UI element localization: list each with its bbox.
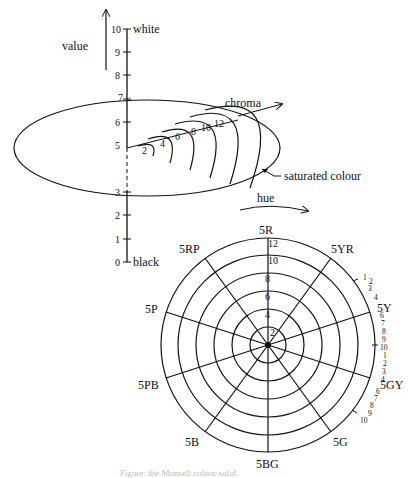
black-label: black [133, 255, 159, 269]
radial-tick-2: 2 [270, 327, 275, 338]
chroma-tick-10: 10 [201, 122, 211, 133]
hue-steps: 1 2 3 4 6 7 8 9 10 1 2 3 4 6 7 8 9 10 [360, 273, 388, 425]
hue-5P: 5P [145, 302, 158, 316]
svg-text:3: 3 [368, 284, 372, 293]
svg-text:7: 7 [374, 394, 378, 403]
radial-tick-4: 4 [265, 309, 270, 320]
value-tick-10: 10 [111, 24, 121, 35]
munsell-diagram: value 10 9 8 7 6 5 3 2 1 0 white black [0, 0, 415, 478]
value-axis-title: value [62, 39, 88, 53]
hue-label: hue [257, 191, 274, 205]
chroma-section: 2 4 6 8 10 12 chroma saturated colour [14, 96, 361, 196]
svg-text:9: 9 [368, 409, 372, 418]
value-tick-0: 0 [115, 257, 120, 268]
chroma-tick-4: 4 [160, 138, 165, 149]
hue-5R: 5R [259, 223, 273, 237]
value-tick-2: 2 [115, 210, 120, 221]
hue-5B: 5B [185, 435, 199, 449]
value-tick-1: 1 [115, 234, 120, 245]
radial-tick-8: 8 [265, 273, 270, 284]
value-tick-6: 6 [115, 117, 120, 128]
value-tick-8: 8 [115, 70, 120, 81]
chroma-tick-6: 6 [175, 131, 180, 142]
radial-tick-12: 12 [268, 238, 278, 249]
chroma-tick-8: 8 [191, 126, 196, 137]
chroma-tick-12: 12 [214, 118, 224, 129]
chroma-label: chroma [225, 96, 262, 110]
svg-text:10: 10 [360, 416, 368, 425]
hue-5G: 5G [333, 435, 348, 449]
svg-text:4: 4 [374, 293, 378, 302]
svg-text:1: 1 [363, 273, 367, 282]
figure-caption: Figure: the Munsell colour solid [120, 468, 236, 478]
saturated-colour-label: saturated colour [284, 169, 361, 183]
hue-circle: hue 2 4 6 8 10 12 [138, 191, 404, 471]
hue-5BG: 5BG [256, 457, 279, 471]
value-axis: value 10 9 8 7 6 5 3 2 1 0 white black [62, 10, 160, 269]
value-tick-5: 5 [115, 140, 120, 151]
svg-text:4: 4 [381, 375, 385, 384]
hue-5PB: 5PB [138, 378, 159, 392]
value-tick-3: 3 [115, 187, 120, 198]
value-tick-9: 9 [115, 47, 120, 58]
value-plane-ellipse [14, 100, 280, 196]
white-label: white [133, 22, 160, 36]
chroma-tick-2: 2 [142, 145, 147, 156]
radial-tick-10: 10 [268, 255, 278, 266]
hue-5RP: 5RP [179, 242, 200, 256]
radial-tick-6: 6 [265, 291, 270, 302]
hue-arrow-icon [240, 206, 308, 211]
hue-5YR: 5YR [331, 242, 354, 256]
